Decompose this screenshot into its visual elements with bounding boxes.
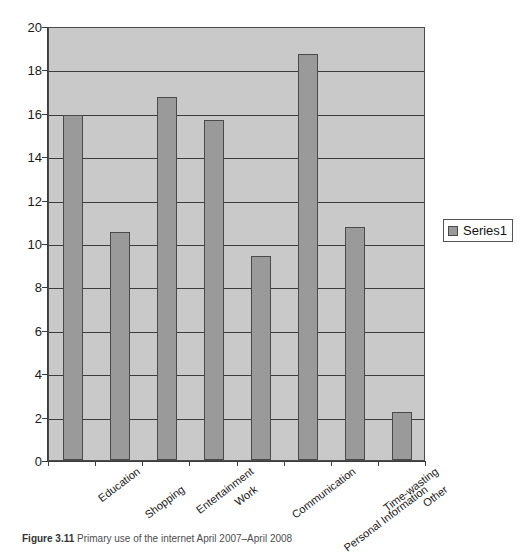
y-tick-label-12: 12	[2, 193, 42, 208]
figure-caption: Figure 3.11 Primary use of the internet …	[22, 533, 492, 544]
bar-slot	[238, 28, 285, 460]
x-label-education: Education	[95, 465, 141, 504]
y-tick-16	[42, 114, 47, 115]
y-tick-20	[42, 27, 47, 28]
legend-label-series1: Series1	[463, 223, 507, 238]
bar[interactable]	[204, 120, 224, 460]
x-axis-category-labels: EducationShoppingEntertainmentWorkCommun…	[0, 461, 520, 531]
y-tick-label-4: 4	[2, 367, 42, 382]
y-tick-12	[42, 201, 47, 202]
y-tick-6	[42, 331, 47, 332]
y-tick-label-16: 16	[2, 106, 42, 121]
figure-number: Figure 3.11	[22, 533, 74, 544]
y-axis-tick-labels: 02468101214161820	[0, 27, 42, 462]
y-tick-4	[42, 374, 47, 375]
chart-plot-area	[48, 27, 425, 461]
y-tick-2	[42, 418, 47, 419]
legend-swatch-series1	[448, 226, 458, 236]
bar[interactable]	[392, 412, 412, 460]
y-tick-label-20: 20	[2, 20, 42, 35]
bar-slot	[143, 28, 190, 460]
bar[interactable]	[157, 97, 177, 460]
bar-slot	[285, 28, 332, 460]
chart-legend[interactable]: Series1	[443, 219, 513, 242]
figure-caption-text: Primary use of the internet April 2007–A…	[77, 533, 292, 544]
x-label-shopping: Shopping	[142, 483, 186, 521]
bar-slot	[190, 28, 237, 460]
y-tick-8	[42, 287, 47, 288]
y-tick-label-18: 18	[2, 63, 42, 78]
x-label-communication: Communication	[289, 465, 357, 521]
bar[interactable]	[110, 232, 130, 460]
y-tick-label-8: 8	[2, 280, 42, 295]
bar[interactable]	[345, 227, 365, 460]
y-tick-label-10: 10	[2, 237, 42, 252]
y-tick-18	[42, 70, 47, 71]
bar[interactable]	[251, 256, 271, 460]
y-tick-label-14: 14	[2, 150, 42, 165]
y-tick-10	[42, 244, 47, 245]
bar-slot	[96, 28, 143, 460]
bar-slot	[332, 28, 379, 460]
y-tick-label-6: 6	[2, 323, 42, 338]
y-tick-label-2: 2	[2, 410, 42, 425]
y-axis-line	[47, 27, 48, 462]
bars-group	[49, 28, 424, 460]
bar-slot	[49, 28, 96, 460]
y-tick-14	[42, 157, 47, 158]
bar[interactable]	[63, 115, 83, 460]
bar-slot	[379, 28, 426, 460]
bar[interactable]	[298, 54, 318, 460]
